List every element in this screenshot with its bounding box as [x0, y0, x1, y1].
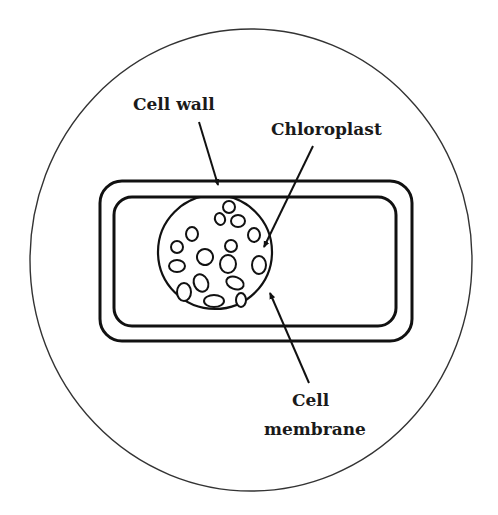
chloroplast-icon — [191, 272, 211, 294]
chloroplast-icon — [204, 295, 224, 307]
cell-diagram: Cell wall Chloroplast Cell membrane — [0, 0, 498, 515]
label-cell-wall: Cell wall — [133, 96, 215, 113]
chloroplast-icon — [252, 256, 266, 274]
chloroplast-icon — [213, 212, 227, 227]
diagram-drawing — [0, 0, 498, 515]
chloroplast-icon — [223, 201, 235, 213]
chloroplast-icon — [177, 283, 191, 301]
chloroplast-icon — [224, 274, 245, 291]
chloroplast-icon — [169, 260, 185, 272]
cell-membrane-arrow-icon — [270, 293, 309, 383]
chloroplast-icon — [195, 247, 216, 268]
chloroplast-icon — [248, 228, 260, 242]
chloroplast-icon — [171, 241, 183, 253]
label-cell-membrane-line2: membrane — [264, 421, 366, 438]
label-chloroplast: Chloroplast — [271, 121, 382, 138]
cell-wall-arrow-icon — [199, 122, 218, 185]
label-cell-membrane-line1: Cell — [292, 392, 329, 409]
chloroplast-icon — [236, 293, 246, 307]
chloroplast-icon — [220, 255, 236, 273]
chloroplast-icon — [186, 227, 198, 241]
microscope-field-of-view — [30, 29, 472, 491]
pointer-lines — [199, 122, 313, 383]
chloroplast-icon — [225, 240, 237, 252]
chloroplast-group — [169, 201, 266, 307]
chloroplast-icon — [231, 215, 245, 227]
